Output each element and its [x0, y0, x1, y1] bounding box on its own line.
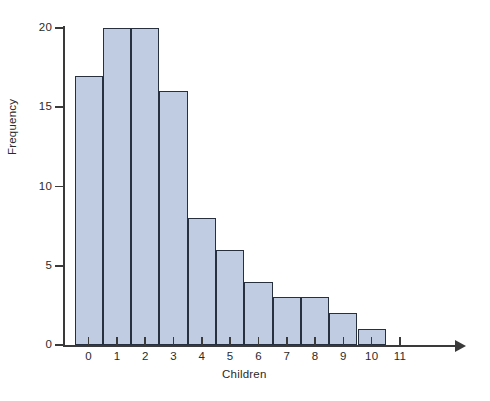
x-axis-tick-label: 10	[357, 350, 387, 362]
x-axis-tick	[399, 337, 401, 346]
y-axis-tick	[55, 27, 64, 29]
histogram-bar	[75, 76, 103, 345]
x-axis-tick-label: 8	[300, 350, 330, 362]
plot-area: 05101520 01234567891011 Frequency Childr…	[0, 0, 490, 401]
y-axis-tick-label: 20	[12, 21, 52, 33]
x-axis-tick	[286, 337, 288, 346]
x-axis-tick	[371, 337, 373, 346]
histogram-bar	[103, 28, 131, 345]
x-axis-tick-label: 7	[272, 350, 302, 362]
histogram-bar	[244, 282, 272, 345]
y-axis-tick	[55, 265, 64, 267]
x-axis-tick	[201, 337, 203, 346]
x-axis-tick-label: 9	[328, 350, 358, 362]
x-axis-title: Children	[0, 368, 489, 380]
x-axis-tick-label: 11	[385, 350, 415, 362]
y-axis-tick	[55, 344, 64, 346]
x-axis-tick	[314, 337, 316, 346]
y-axis-tick-label: 10	[12, 180, 52, 192]
x-axis-tick	[343, 337, 345, 346]
x-axis-tick-label: 1	[102, 350, 132, 362]
histogram-figure: 05101520 01234567891011 Frequency Childr…	[0, 0, 490, 401]
x-axis-tick	[88, 337, 90, 346]
x-axis-tick-label: 4	[187, 350, 217, 362]
x-axis-tick-label: 3	[159, 350, 189, 362]
y-axis-tick	[55, 186, 64, 188]
histogram-bar	[159, 91, 187, 345]
x-axis-tick-label: 5	[215, 350, 245, 362]
x-axis-tick	[229, 337, 231, 346]
histogram-bar	[131, 28, 159, 345]
y-axis-tick-label: 15	[12, 100, 52, 112]
histogram-bar	[216, 250, 244, 345]
y-axis-tick-label: 5	[12, 259, 52, 271]
x-axis-tick	[258, 337, 260, 346]
x-axis-arrow-icon	[455, 340, 466, 352]
y-axis-tick	[55, 106, 64, 108]
y-axis-title: Frequency	[6, 99, 18, 155]
y-axis-tick-label: 0	[12, 338, 52, 350]
x-axis-tick-label: 2	[130, 350, 160, 362]
histogram-bar	[188, 218, 216, 345]
x-axis-tick-label: 6	[243, 350, 273, 362]
x-axis-tick	[144, 337, 146, 346]
x-axis-tick-label: 0	[74, 350, 104, 362]
x-axis-tick	[116, 337, 118, 346]
x-axis-tick	[173, 337, 175, 346]
